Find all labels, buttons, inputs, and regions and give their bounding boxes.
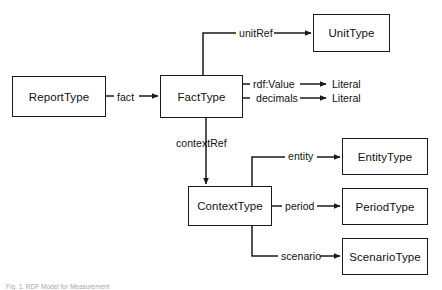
node-unit-type[interactable]: UnitType <box>313 14 390 52</box>
node-fact-type[interactable]: FactType <box>160 75 243 118</box>
edge-label-scenario: scenario <box>281 250 321 262</box>
node-label: UnitType <box>328 27 374 39</box>
edge-label-decimals: decimals <box>256 92 298 104</box>
edge-label-rdf-value: rdf:Value <box>253 78 295 90</box>
node-report-type[interactable]: ReportType <box>12 76 106 117</box>
edge-label-entity: entity <box>288 150 313 162</box>
edge-label-fact: fact <box>117 91 134 103</box>
node-context-type[interactable]: ContextType <box>188 186 272 226</box>
edge-label-unitref: unitRef <box>239 27 273 39</box>
node-label: ContextType <box>197 200 263 212</box>
node-label: PeriodType <box>355 201 414 213</box>
edge-contexttype-to-scenario-spine <box>252 226 278 256</box>
node-entity-type[interactable]: EntityType <box>342 138 428 175</box>
node-label: ScenarioType <box>349 251 421 263</box>
edge-contexttype-to-entity-spine <box>252 157 285 186</box>
node-scenario-type[interactable]: ScenarioType <box>342 238 428 275</box>
target-literal-decimals: Literal <box>332 92 361 104</box>
edge-facttype-to-unitref <box>203 33 236 75</box>
node-label: EntityType <box>358 151 413 163</box>
target-literal-value: Literal <box>332 78 361 90</box>
node-period-type[interactable]: PeriodType <box>342 188 428 225</box>
figure-caption: Fig. 1. RDF Model for Measurement <box>6 283 436 290</box>
node-label: FactType <box>177 91 225 103</box>
figure-canvas: ReportType FactType UnitType ContextType… <box>0 0 442 290</box>
edge-label-period: period <box>285 200 315 212</box>
edge-label-contextref: contextRef <box>176 137 227 149</box>
node-label: ReportType <box>29 91 89 103</box>
